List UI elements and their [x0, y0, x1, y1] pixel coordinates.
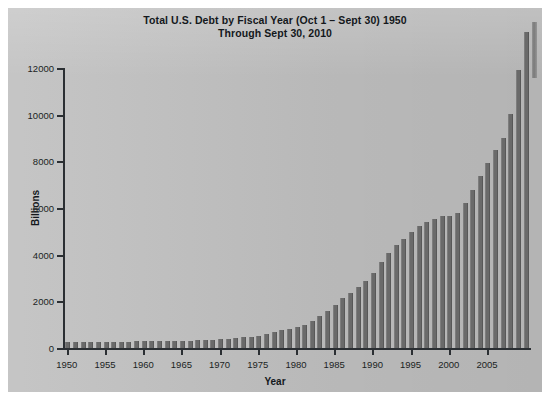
- y-tick-label: 6000: [33, 203, 54, 214]
- bar: [134, 341, 139, 348]
- y-tick: [57, 208, 63, 210]
- y-tick-label: 4000: [33, 249, 54, 260]
- y-tick-label: 2000: [33, 296, 54, 307]
- x-axis-title: Year: [8, 376, 542, 387]
- bar: [233, 338, 238, 348]
- bar: [157, 341, 162, 348]
- x-tick-label: 2005: [476, 359, 497, 370]
- x-tick-label: 1995: [400, 359, 421, 370]
- bar: [241, 337, 246, 348]
- x-tick: [181, 348, 183, 355]
- x-tick: [334, 348, 336, 355]
- y-tick: [57, 68, 63, 70]
- x-tick: [220, 348, 222, 355]
- bar: [493, 150, 498, 348]
- x-tick-label: 1950: [56, 359, 77, 370]
- bar: [409, 232, 414, 348]
- bar: [172, 341, 177, 348]
- bar: [210, 340, 215, 348]
- bar: [317, 316, 322, 348]
- bar: [126, 342, 131, 348]
- bar: [371, 273, 376, 348]
- x-tick: [258, 348, 260, 355]
- x-tick-label: 1960: [133, 359, 154, 370]
- bar: [88, 342, 93, 348]
- bar: [455, 213, 460, 348]
- x-tick: [67, 348, 69, 355]
- y-tick: [57, 161, 63, 163]
- x-tick-label: 1975: [247, 359, 268, 370]
- bar: [256, 336, 261, 348]
- bar: [111, 342, 116, 348]
- x-tick: [449, 348, 451, 355]
- y-tick-label: 8000: [33, 156, 54, 167]
- bar: [394, 245, 399, 348]
- bar: [340, 298, 345, 348]
- bar: [524, 32, 529, 348]
- x-tick: [105, 348, 107, 355]
- bar: [249, 337, 254, 348]
- bar: [501, 138, 506, 348]
- x-tick: [411, 348, 413, 355]
- x-tick-label: 1990: [362, 359, 383, 370]
- chart-figure: Total U.S. Debt by Fiscal Year (Oct 1 – …: [8, 8, 542, 392]
- plot-area: 020004000600080001000012000 195019551960…: [63, 68, 529, 348]
- x-tick-label: 1970: [209, 359, 230, 370]
- y-tick-label: 12000: [28, 63, 54, 74]
- chart-title: Total U.S. Debt by Fiscal Year (Oct 1 – …: [8, 14, 542, 40]
- bar: [424, 222, 429, 348]
- y-axis-line: [63, 68, 65, 350]
- bar: [417, 226, 422, 348]
- bar: [104, 342, 109, 348]
- bar: [218, 339, 223, 348]
- bar: [333, 305, 338, 348]
- x-tick-label: 1965: [171, 359, 192, 370]
- bar: [180, 341, 185, 348]
- bar: [478, 176, 483, 348]
- bar: [516, 70, 521, 348]
- bar: [386, 253, 391, 348]
- bar: [348, 293, 353, 348]
- bar: [310, 321, 315, 348]
- x-tick: [296, 348, 298, 355]
- bar: [203, 340, 208, 348]
- bar: [165, 341, 170, 348]
- chart-title-line-one: Total U.S. Debt by Fiscal Year (Oct 1 – …: [143, 14, 406, 26]
- x-tick-label: 1980: [285, 359, 306, 370]
- bar: [508, 114, 513, 348]
- chart-title-line-two: Through Sept 30, 2010: [8, 27, 542, 40]
- bar: [96, 342, 101, 348]
- bar: [272, 332, 277, 348]
- bar: [485, 163, 490, 348]
- bar: [287, 329, 292, 348]
- bar: [119, 342, 124, 348]
- bar: [440, 216, 445, 348]
- x-tick: [372, 348, 374, 355]
- bar: [226, 339, 231, 348]
- bar: [142, 341, 147, 348]
- bar: [279, 330, 284, 348]
- bar: [302, 325, 307, 348]
- bar: [447, 216, 452, 348]
- bar: [463, 203, 468, 348]
- bar: [325, 311, 330, 348]
- bar: [264, 334, 269, 348]
- bar: [73, 342, 78, 348]
- bar: [379, 262, 384, 348]
- y-tick-label: 0: [49, 343, 54, 354]
- bar: [363, 281, 368, 348]
- x-tick-label: 1955: [94, 359, 115, 370]
- bar: [149, 341, 154, 348]
- x-tick-label: 2000: [438, 359, 459, 370]
- bar: [188, 341, 193, 348]
- x-tick: [487, 348, 489, 355]
- bar: [470, 190, 475, 348]
- x-tick: [143, 348, 145, 355]
- y-tick: [57, 255, 63, 257]
- y-tick-label: 10000: [28, 109, 54, 120]
- bar: [81, 342, 86, 348]
- bar: [356, 287, 361, 348]
- y-tick: [57, 115, 63, 117]
- y-tick: [57, 348, 63, 350]
- bar: [401, 239, 406, 349]
